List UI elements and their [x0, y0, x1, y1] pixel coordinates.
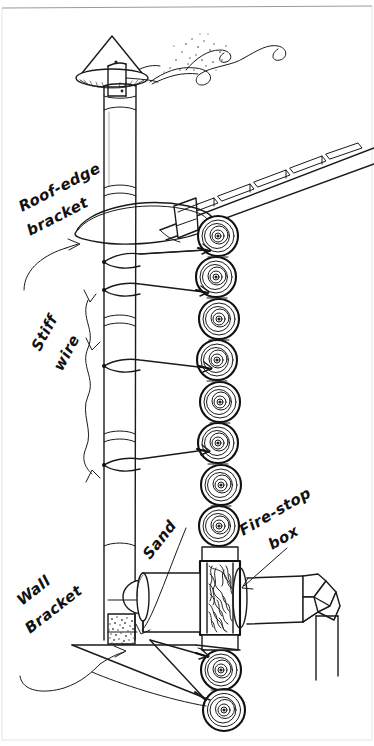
log-end [199, 299, 239, 339]
horizontal-stove-pipe [247, 576, 303, 624]
roof-edge-bracket-pointer [24, 239, 80, 290]
stiff-wire-line1: Stiff [28, 310, 63, 354]
log-end [201, 465, 241, 505]
svg-text:Sand: Sand [139, 517, 180, 563]
log-end [200, 382, 240, 422]
log-end [197, 340, 237, 380]
label-roof-edge-bracket: Roof-edge bracket [16, 159, 104, 290]
wall-thimble [108, 573, 200, 632]
firestop-box-line2: box [265, 521, 302, 553]
log-end [198, 423, 238, 463]
stiff-wire-pointer [84, 290, 100, 482]
chimney-diagram-canvas: Roof-edge bracket Stiff wire [0, 0, 374, 746]
wall-bracket-pointer [20, 646, 206, 706]
firestop-box-pointer [242, 548, 287, 589]
sand-text: Sand [139, 517, 180, 563]
roof-shingles [182, 143, 362, 215]
svg-text:box: box [265, 521, 302, 553]
drawing-sheet: Roof-edge bracket Stiff wire [0, 0, 374, 746]
svg-text:Stiff: Stiff [28, 310, 63, 354]
sand-stipple [108, 616, 135, 645]
log-wall [196, 216, 245, 731]
firestop-box [200, 547, 247, 650]
flue-pipe [104, 84, 136, 640]
label-stiff-wire: Stiff wire [28, 290, 100, 482]
sand-fill [108, 614, 135, 645]
log-end [203, 689, 245, 731]
gored-elbow [303, 574, 340, 680]
label-firestop-box: Fire-stop box [236, 484, 314, 589]
rain-cap [76, 36, 158, 96]
stiff-wire-line2: wire [50, 332, 84, 374]
log-end [199, 506, 239, 546]
smoke-curls [129, 46, 286, 85]
roof-edge [160, 143, 374, 242]
svg-text:wire: wire [50, 332, 84, 374]
